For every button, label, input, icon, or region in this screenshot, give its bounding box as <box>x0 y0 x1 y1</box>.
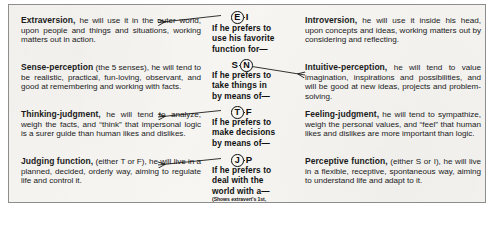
entry-term: Intuitive-perception, <box>305 62 387 72</box>
question-block-jp: If he prefers to deal with the world wit… <box>212 165 298 203</box>
circled-letter-e: E <box>231 11 244 24</box>
entry-term: Extraversion, <box>21 15 76 25</box>
question-line: deal with the <box>212 175 298 185</box>
question-line: by means of— <box>212 138 298 148</box>
question-line: take things in <box>212 80 298 90</box>
entry-term: Thinking-judgment, <box>21 109 101 119</box>
plain-letter-f: F <box>245 107 252 117</box>
question-line: If he prefers to <box>212 70 298 80</box>
pair-badge-jp: JP <box>231 154 253 167</box>
entry-perceptive-function: Perceptive function, (either S or I), he… <box>305 157 481 186</box>
entry-introversion: Introversion, he will use it inside his … <box>305 16 481 45</box>
circled-letter-t: T <box>231 106 244 119</box>
question-line: If he prefers to <box>212 117 298 127</box>
pair-badge-tf: TF <box>231 106 252 119</box>
question-line: use his favorite <box>212 33 298 43</box>
pair-badge-ei: EI <box>231 11 249 24</box>
question-line: by means of— <box>212 91 298 101</box>
question-line: world with a— <box>212 186 298 196</box>
entry-term: Feeling-judgment, <box>305 109 379 119</box>
entry-term: Perceptive function, <box>305 156 388 166</box>
jp-footnote-line: (Shows extravert's 1st, <box>212 197 298 203</box>
entry-feeling-judgment: Feeling-judgment, he will tend to sympat… <box>305 110 481 139</box>
question-block-ei: If he prefers to use his favorite functi… <box>212 23 298 54</box>
entry-extraversion: Extraversion, he will use it in the oute… <box>21 16 201 45</box>
question-block-tf: If he prefers to make decisions by means… <box>212 117 298 148</box>
page-root: Extraversion, he will use it in the oute… <box>0 0 494 227</box>
entry-term: Judging function, <box>21 156 93 166</box>
entry-term: Introversion, <box>305 15 357 25</box>
pair-badge-sn: SN <box>231 59 253 72</box>
chart-panel: Extraversion, he will use it in the oute… <box>8 4 486 203</box>
entry-intuitive-perception: Intuitive-perception, he will tend to va… <box>305 63 481 101</box>
entry-sense-perception: Sense-perception (the 5 senses), he will… <box>21 63 201 92</box>
entry-judging-function: Judging function, (either T or F), he wi… <box>21 157 201 186</box>
entry-thinking-judgment: Thinking-judgment, he will tend to analy… <box>21 110 201 139</box>
jp-footnote: (Shows extravert's 1st, introvert's 2nd … <box>212 197 298 203</box>
circled-letter-j: J <box>231 154 244 167</box>
plain-letter-p: P <box>245 155 253 165</box>
question-line: If he prefers to <box>212 23 298 33</box>
plain-letter-s: S <box>231 60 239 70</box>
plain-letter-i: I <box>245 12 249 22</box>
question-block-sn: If he prefers to take things in by means… <box>212 70 298 101</box>
entry-term: Sense-perception <box>21 62 93 72</box>
question-line: make decisions <box>212 127 298 137</box>
circled-letter-n: N <box>240 59 253 72</box>
question-line: function for— <box>212 44 298 54</box>
question-line: If he prefers to <box>212 165 298 175</box>
